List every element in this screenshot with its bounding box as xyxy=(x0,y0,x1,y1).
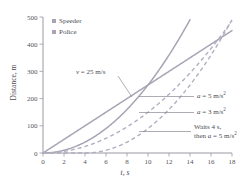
y-axis-ticks xyxy=(40,17,44,153)
legend-swatch-icon xyxy=(52,30,56,34)
annotation-v25-rest: = 25 m/s xyxy=(79,68,105,76)
x-axis-title-text: t, s xyxy=(121,168,130,177)
y-tick-label: 300 xyxy=(27,68,38,76)
y-tick-label: 400 xyxy=(27,41,38,49)
y-axis-tick-labels: 0 100 200 300 400 500 xyxy=(27,14,38,158)
annotation-wait-line1: Waits 4 s, xyxy=(194,123,237,132)
annotation-wait-line2-rest: = 5 m/s xyxy=(211,132,234,140)
legend-label-police: Police xyxy=(59,28,77,36)
x-tick-label: 0 xyxy=(41,158,45,166)
annotation-a3: a = 3 m/s2 xyxy=(197,108,226,117)
y-tick-label: 0 xyxy=(34,150,38,158)
chart-legend: Speeder Police xyxy=(52,16,82,38)
y-tick-label: 200 xyxy=(27,95,38,103)
legend-item-speeder: Speeder xyxy=(52,16,82,26)
y-tick-label: 500 xyxy=(27,14,38,22)
annotation-leader-v25 xyxy=(118,76,132,97)
x-tick-label: 14 xyxy=(187,158,195,166)
annotation-a5: a = 5 m/s2 xyxy=(197,92,226,101)
chart-figure: 0 100 200 300 400 500 0 2 4 6 8 xyxy=(0,0,250,184)
annotation-a5-sup: 2 xyxy=(223,91,226,96)
annotation-v25: v = 25 m/s xyxy=(76,68,105,77)
annotation-a3-rest: = 3 m/s xyxy=(201,108,224,116)
x-tick-label: 18 xyxy=(229,158,237,166)
legend-item-police: Police xyxy=(52,27,82,37)
annotation-a5-rest: = 5 m/s xyxy=(201,92,224,100)
annotation-wait-line2-sup: 2 xyxy=(234,130,237,135)
y-axis-title: Distance, m xyxy=(9,53,18,113)
legend-label-speeder: Speeder xyxy=(59,17,82,25)
x-tick-label: 10 xyxy=(145,158,153,166)
x-tick-label: 4 xyxy=(83,158,87,166)
x-tick-label: 6 xyxy=(104,158,108,166)
legend-swatch-icon xyxy=(52,19,56,23)
annotation-wait-line2: then a = 5 m/s2 xyxy=(194,132,237,141)
x-axis-title: t, s xyxy=(0,168,250,177)
y-tick-label: 100 xyxy=(27,122,38,130)
x-tick-label: 12 xyxy=(166,158,174,166)
annotation-a3-sup: 2 xyxy=(223,107,226,112)
annotation-wait-line2-pre: then xyxy=(194,132,208,140)
x-tick-label: 16 xyxy=(208,158,216,166)
x-tick-label: 8 xyxy=(125,158,129,166)
x-tick-label: 2 xyxy=(62,158,66,166)
series-line-police-a5 xyxy=(43,20,190,153)
annotation-wait-then-a5: Waits 4 s, then a = 5 m/s2 xyxy=(194,123,237,141)
x-axis-tick-labels: 0 2 4 6 8 10 12 14 16 18 xyxy=(41,158,236,166)
